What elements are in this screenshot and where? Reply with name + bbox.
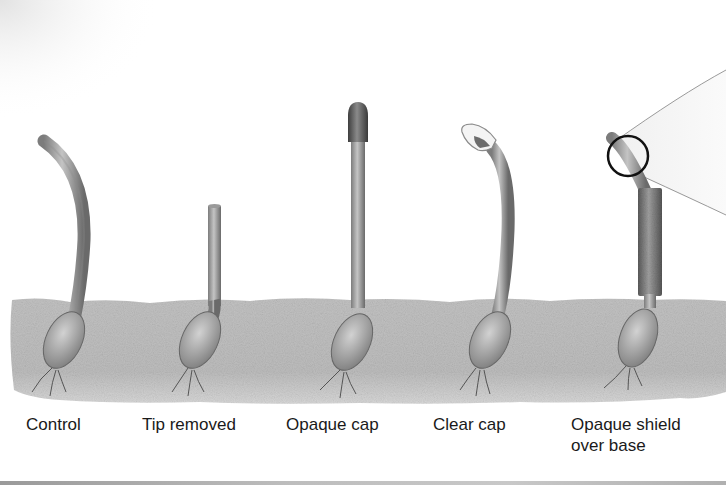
bottom-rule (0, 481, 726, 485)
opaque-cap-icon (348, 102, 368, 142)
corner-shade (0, 0, 160, 120)
label-opaque-shield-line2: over base (571, 435, 681, 456)
opaque-shield-icon (638, 188, 662, 296)
label-clear-cap: Clear cap (433, 414, 506, 435)
label-tip-removed: Tip removed (142, 414, 236, 435)
label-control: Control (26, 414, 81, 435)
light-beam-icon (614, 70, 726, 215)
label-opaque-shield-line1: Opaque shield (571, 414, 681, 435)
label-opaque-cap: Opaque cap (286, 414, 379, 435)
label-opaque-shield: Opaque shield over base (571, 414, 681, 456)
phototropism-diagram (0, 0, 726, 485)
